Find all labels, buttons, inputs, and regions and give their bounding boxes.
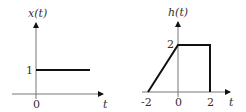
x-tick-2: 2 [207,96,214,109]
plot-h-of-t: h(t) 2 -2 0 2 t [141,6,234,109]
plot-x-of-t: x(t) 1 0 t [12,7,108,111]
impulse-response-signal [148,45,210,92]
x-tick-0: 0 [175,96,182,109]
y-axis-label: h(t) [168,6,188,19]
signals-diagram: x(t) 1 0 t h(t) 2 -2 0 2 t [0,0,246,112]
y-tick-1: 1 [26,64,33,77]
y-tick-2: 2 [167,38,174,51]
y-axis-label: x(t) [28,7,47,20]
x-tick-neg2: -2 [141,96,152,109]
x-axis-label: t [229,96,234,109]
x-tick-0: 0 [33,98,40,111]
x-axis-label: t [103,98,108,111]
